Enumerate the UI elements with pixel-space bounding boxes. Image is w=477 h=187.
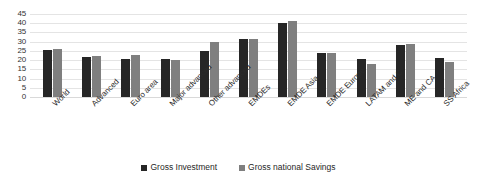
y-axis-tick-label: 20 [18, 56, 27, 64]
y-axis-tick-label: 10 [18, 75, 27, 83]
y-axis-tick-label: 30 [18, 38, 27, 46]
y-axis-tick-label: 45 [18, 10, 27, 18]
y-axis-tick-label: 35 [18, 28, 27, 36]
x-axis-labels: WorldAdvancedEuro areaMajor advancedOthe… [30, 99, 467, 157]
legend-item[interactable]: Gross Investment [141, 163, 217, 172]
y-axis-tick-label: 5 [22, 84, 26, 92]
x-axis-label-cell: Major advanced [151, 99, 190, 157]
legend-swatch-icon [141, 165, 147, 171]
x-axis-label-cell: EMDE Asia [268, 99, 307, 157]
bar [161, 59, 170, 97]
x-axis-label-cell: Euro area [111, 99, 150, 157]
plot-area [30, 14, 467, 97]
bar-group [33, 14, 72, 97]
bar [43, 50, 52, 97]
legend-label: Gross Investment [150, 163, 217, 172]
y-axis-tick-label: 0 [22, 93, 26, 101]
legend-label: Gross national Savings [248, 163, 335, 172]
bar [288, 21, 297, 97]
x-axis-label-cell: LATAM and C [347, 99, 386, 157]
x-axis-label-cell: EMDEs [229, 99, 268, 157]
bar [121, 59, 130, 97]
bar [278, 23, 287, 97]
legend-item[interactable]: Gross national Savings [239, 163, 335, 172]
bar [317, 53, 326, 97]
y-axis-tick-label: 40 [18, 19, 27, 27]
x-axis-label-cell: World [33, 99, 72, 157]
x-axis-label-cell: ME and CA [386, 99, 425, 157]
bar [406, 44, 415, 97]
legend-swatch-icon [239, 165, 245, 171]
y-axis-tick-label: 25 [18, 47, 27, 55]
x-axis-label-cell: Advanced [72, 99, 111, 157]
bar-chart: 454035302520151050 WorldAdvancedEuro are… [0, 0, 477, 187]
chart-legend: Gross InvestmentGross national Savings [0, 163, 477, 172]
bar-groups [30, 14, 467, 97]
bar [82, 57, 91, 97]
y-axis: 454035302520151050 [0, 14, 26, 97]
bar [53, 49, 62, 97]
y-axis-tick-label: 15 [18, 65, 27, 73]
x-axis-label-cell: Other advanced [190, 99, 229, 157]
x-axis-label-cell: SS Africa [425, 99, 464, 157]
x-axis-label-cell: EMDE Europe [307, 99, 346, 157]
